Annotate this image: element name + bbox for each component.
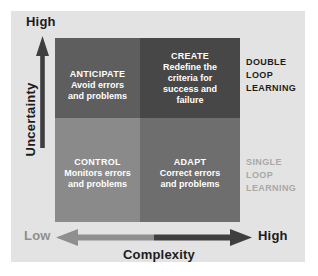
annotation-line: LOOP [246,69,296,82]
arrow-left-right-icon [56,229,252,246]
vertical-axis-label: Uncertainty [23,74,38,166]
quadrant-adapt[interactable]: ADAPT Correct errors and problems [140,118,240,222]
quadrant-control[interactable]: CONTROL Monitors errors and problems [55,118,140,222]
quadrant-description-line: failure [163,95,217,106]
quadrant-matrix: ANTICIPATE Avoid errors and problems CRE… [55,38,240,222]
horizontal-axis-low-label: Low [24,228,51,243]
quadrant-description-line: and problems [64,179,131,190]
vertical-axis-high-label: High [26,14,56,29]
horizontal-axis-high-label: High [258,228,288,243]
quadrant-description-line: Redefine the [163,62,217,73]
quadrant-description-line: criteria for [163,73,217,84]
horizontal-axis-label: Complexity [0,247,318,262]
annotation-line: DOUBLE [246,56,296,69]
annotation-single-loop-learning: SINGLE LOOP LEARNING [246,156,296,195]
annotation-double-loop-learning: DOUBLE LOOP LEARNING [246,56,296,95]
quadrant-description-line: Monitors errors [64,168,131,179]
quadrant-description-line: Avoid errors [68,80,127,91]
quadrant-title: ANTICIPATE [68,69,127,80]
diagram-canvas: High Uncertainty ANTICIPATE Avoid errors… [0,0,318,276]
annotation-line: LEARNING [246,182,296,195]
quadrant-description-line: Correct errors [160,168,221,179]
quadrant-create[interactable]: CREATE Redefine the criteria for success… [140,38,240,118]
annotation-line: LEARNING [246,82,296,95]
quadrant-title: CREATE [163,51,217,62]
quadrant-anticipate[interactable]: ANTICIPATE Avoid errors and problems [55,38,140,118]
annotation-line: LOOP [246,169,296,182]
quadrant-title: CONTROL [64,157,131,168]
annotation-line: SINGLE [246,156,296,169]
quadrant-description-line: success and [163,84,217,95]
quadrant-description-line: and problems [68,91,127,102]
quadrant-description-line: and problems [160,179,221,190]
quadrant-title: ADAPT [160,157,221,168]
